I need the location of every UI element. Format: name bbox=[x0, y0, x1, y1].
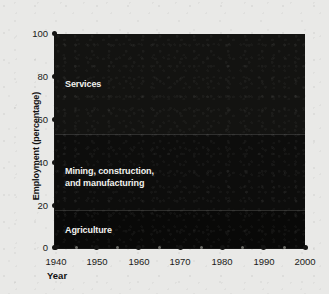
x-tick-mark-minor-1965 bbox=[158, 246, 161, 249]
y-tick-label-20: 20 bbox=[18, 200, 48, 211]
x-tick-label-1980: 1980 bbox=[205, 256, 239, 267]
x-tick-mark-1990 bbox=[261, 245, 266, 250]
area-label-services: Services bbox=[65, 78, 101, 90]
x-tick-mark-minor-1945 bbox=[75, 246, 78, 249]
plot-area: Services Mining, construction, and manuf… bbox=[55, 34, 305, 248]
band-boundary-mining-agriculture bbox=[55, 210, 305, 211]
x-tick-mark-minor-1955 bbox=[116, 246, 119, 249]
x-tick-mark-2000 bbox=[303, 245, 308, 250]
x-axis-title: Year bbox=[47, 270, 67, 281]
x-tick-label-1960: 1960 bbox=[122, 256, 156, 267]
x-tick-label-1970: 1970 bbox=[163, 256, 197, 267]
area-label-mining-construction-manufacturing: Mining, construction, and manufacturing bbox=[65, 165, 154, 189]
x-tick-mark-1980 bbox=[220, 245, 225, 250]
band-boundary-services-mining bbox=[55, 134, 305, 135]
y-tick-label-60: 60 bbox=[18, 114, 48, 125]
y-tick-label-40: 40 bbox=[18, 157, 48, 168]
x-tick-label-1990: 1990 bbox=[247, 256, 281, 267]
x-tick-mark-minor-1995 bbox=[283, 246, 286, 249]
x-tick-mark-1960 bbox=[136, 245, 141, 250]
y-tick-label-80: 80 bbox=[18, 71, 48, 82]
x-tick-label-2000: 2000 bbox=[288, 256, 322, 267]
x-tick-label-1950: 1950 bbox=[80, 256, 114, 267]
x-tick-label-1940: 1940 bbox=[39, 256, 73, 267]
area-label-agriculture: Agriculture bbox=[65, 224, 112, 236]
y-axis-tick-labels: 100 80 60 40 20 0 bbox=[18, 0, 48, 294]
x-tick-mark-1970 bbox=[178, 245, 183, 250]
employment-area-chart-figure: Employment (percentage) 100 80 60 40 20 … bbox=[0, 0, 329, 294]
x-tick-mark-minor-1985 bbox=[241, 246, 244, 249]
x-tick-mark-1950 bbox=[94, 245, 99, 250]
y-tick-label-100: 100 bbox=[18, 28, 48, 39]
x-tick-mark-minor-1975 bbox=[200, 246, 203, 249]
x-tick-mark-1940 bbox=[53, 245, 58, 250]
y-tick-label-0: 0 bbox=[18, 242, 48, 253]
